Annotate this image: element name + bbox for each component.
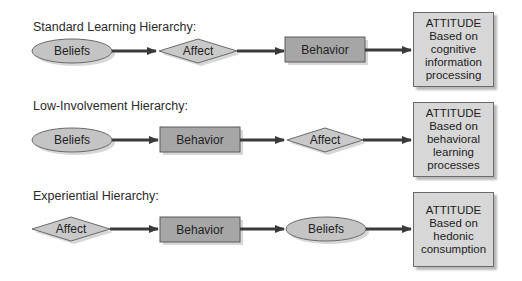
attitude-box-cognitive: ATTITUDE Based on cognitive information … xyxy=(413,12,494,87)
attitude-heading: ATTITUDE xyxy=(426,107,481,120)
attitude-line: information xyxy=(425,56,482,69)
attitude-line: consumption xyxy=(421,243,486,256)
attitude-line: Based on xyxy=(429,120,478,133)
node-label-behavior: Behavior xyxy=(285,37,365,62)
attitude-line: processing xyxy=(426,69,482,82)
node-label-affect: Affect xyxy=(287,128,363,152)
attitude-line: hedonic xyxy=(433,230,473,243)
node-label-affect: Affect xyxy=(32,217,110,241)
node-label-behavior: Behavior xyxy=(160,127,240,152)
node-label-behavior: Behavior xyxy=(160,217,240,242)
hierarchy-title: Standard Learning Hierarchy: xyxy=(33,20,196,34)
node-label-beliefs: Beliefs xyxy=(32,39,112,63)
hierarchy-title: Low-Involvement Hierarchy: xyxy=(33,99,188,113)
attitude-box-hedonic: ATTITUDE Based on hedonic consumption xyxy=(413,192,494,267)
node-label-beliefs: Beliefs xyxy=(32,128,112,152)
attitude-line: Based on xyxy=(429,30,478,43)
attitude-heading: ATTITUDE xyxy=(426,204,481,217)
attitude-line: behavioral xyxy=(427,133,480,146)
attitude-line: cognitive xyxy=(431,43,476,56)
attitude-heading: ATTITUDE xyxy=(426,17,481,30)
hierarchy-title: Experiential Hierarchy: xyxy=(33,189,159,203)
attitude-line: processes xyxy=(427,159,479,172)
node-label-beliefs: Beliefs xyxy=(286,217,366,241)
attitude-line: learning xyxy=(433,146,474,159)
node-label-affect: Affect xyxy=(159,39,237,63)
attitude-box-behavioral: ATTITUDE Based on behavioral learning pr… xyxy=(413,102,494,177)
attitude-line: Based on xyxy=(429,217,478,230)
